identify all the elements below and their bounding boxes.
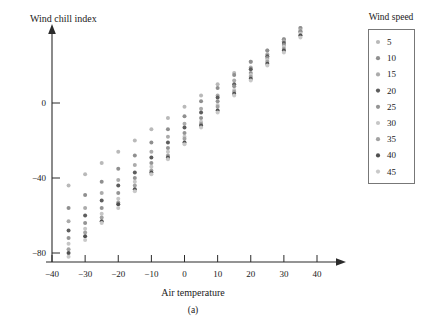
data-point bbox=[149, 172, 153, 176]
x-tick-label: −40 bbox=[45, 269, 60, 279]
data-point bbox=[67, 247, 71, 251]
data-point bbox=[265, 49, 269, 53]
legend-item-label[interactable]: 40 bbox=[387, 150, 397, 160]
data-point bbox=[116, 197, 120, 201]
legend-entry-group: 51015202530354045 bbox=[376, 37, 397, 177]
data-point bbox=[166, 140, 170, 144]
legend-item-label[interactable]: 45 bbox=[387, 167, 397, 177]
data-point bbox=[67, 242, 71, 246]
x-tick-label: 30 bbox=[279, 269, 289, 279]
data-point bbox=[216, 86, 220, 90]
data-point bbox=[67, 229, 71, 233]
data-point bbox=[149, 127, 153, 131]
legend-item-label[interactable]: 30 bbox=[387, 118, 397, 128]
data-point bbox=[67, 255, 71, 259]
y-tick-label: −80 bbox=[32, 248, 47, 258]
data-point bbox=[183, 131, 187, 135]
data-point bbox=[199, 125, 203, 129]
data-point bbox=[100, 206, 104, 210]
data-point bbox=[100, 180, 104, 184]
data-point bbox=[149, 161, 153, 165]
x-tick-label: −20 bbox=[111, 269, 126, 279]
legend-item-label[interactable]: 15 bbox=[387, 69, 397, 79]
data-point bbox=[199, 107, 203, 111]
y-tick-label: −40 bbox=[32, 173, 47, 183]
data-point bbox=[149, 155, 153, 159]
data-point bbox=[249, 79, 253, 83]
x-tick-label: 0 bbox=[182, 269, 187, 279]
data-point bbox=[133, 163, 137, 167]
y-axis-group bbox=[48, 24, 56, 262]
data-point bbox=[67, 219, 71, 223]
data-point bbox=[149, 150, 153, 154]
data-point bbox=[133, 176, 137, 180]
legend-item-label[interactable]: 20 bbox=[387, 86, 397, 96]
y-axis-arrow-icon bbox=[48, 24, 56, 34]
data-point bbox=[116, 202, 120, 206]
data-point bbox=[166, 127, 170, 131]
data-point bbox=[100, 199, 104, 203]
x-tick-label: 40 bbox=[313, 269, 323, 279]
data-point bbox=[249, 60, 253, 64]
legend-item-label[interactable]: 35 bbox=[387, 134, 397, 144]
legend-marker-icon bbox=[376, 72, 380, 76]
data-point bbox=[83, 230, 87, 234]
data-point bbox=[183, 114, 187, 118]
data-point bbox=[232, 79, 236, 83]
data-point bbox=[183, 142, 187, 146]
data-point bbox=[83, 193, 87, 197]
data-point bbox=[100, 161, 104, 165]
data-point bbox=[232, 94, 236, 98]
data-point bbox=[199, 116, 203, 120]
data-point bbox=[133, 139, 137, 143]
data-point bbox=[67, 206, 71, 210]
data-point bbox=[199, 94, 203, 98]
legend-item-label[interactable]: 10 bbox=[387, 53, 397, 63]
data-point bbox=[116, 178, 120, 182]
data-point bbox=[83, 234, 87, 238]
data-point bbox=[265, 64, 269, 68]
data-point bbox=[67, 184, 71, 188]
data-point bbox=[149, 165, 153, 169]
data-point bbox=[282, 50, 286, 54]
legend-item-label[interactable]: 25 bbox=[387, 102, 397, 112]
data-point bbox=[83, 206, 87, 210]
data-point-group bbox=[67, 26, 303, 259]
data-point bbox=[100, 212, 104, 216]
data-point bbox=[133, 154, 137, 158]
legend-item-label[interactable]: 5 bbox=[387, 37, 392, 47]
data-point bbox=[166, 157, 170, 161]
data-point bbox=[83, 214, 87, 218]
data-point bbox=[216, 105, 220, 109]
data-point bbox=[166, 146, 170, 150]
data-point bbox=[116, 167, 120, 171]
data-point bbox=[298, 35, 302, 39]
legend: Wind speed 51015202530354045 bbox=[369, 12, 415, 184]
x-axis-title: Air temperature bbox=[161, 287, 225, 298]
legend-marker-icon bbox=[376, 153, 380, 157]
data-point bbox=[83, 221, 87, 225]
x-axis-arrow-icon bbox=[336, 258, 346, 266]
data-point bbox=[116, 206, 120, 210]
data-point bbox=[116, 191, 120, 195]
x-tick-label: −10 bbox=[144, 269, 159, 279]
data-point bbox=[216, 95, 220, 99]
data-point bbox=[83, 227, 87, 231]
data-point bbox=[166, 135, 170, 139]
legend-marker-icon bbox=[376, 170, 380, 174]
data-point bbox=[199, 99, 203, 103]
data-point bbox=[133, 170, 137, 174]
y-tick-group: 0−40−80 bbox=[32, 98, 60, 258]
legend-marker-icon bbox=[376, 121, 380, 125]
data-point bbox=[133, 184, 137, 188]
y-axis-title: Wind chill index bbox=[30, 13, 97, 24]
data-point bbox=[183, 105, 187, 109]
data-point bbox=[116, 150, 120, 154]
x-tick-group: −40−30−20−10010203040 bbox=[45, 255, 322, 279]
data-point bbox=[249, 67, 253, 71]
data-point bbox=[166, 116, 170, 120]
data-point bbox=[100, 221, 104, 225]
x-tick-label: 20 bbox=[246, 269, 256, 279]
legend-marker-icon bbox=[376, 105, 380, 109]
data-point bbox=[116, 184, 120, 188]
